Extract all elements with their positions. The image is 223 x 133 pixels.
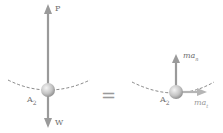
normal-accel-text: ma xyxy=(183,51,195,60)
force-p-arrowhead xyxy=(44,4,52,14)
tangent-accel-text: ma xyxy=(194,98,206,107)
normal-accel-label: man xyxy=(183,52,199,62)
free-body-diagram xyxy=(0,0,223,133)
force-w-arrowhead xyxy=(44,118,52,128)
tangent-accel-label: mat xyxy=(194,99,208,109)
normal-accel-subscript: n xyxy=(195,56,198,62)
tangent-accel-subscript: t xyxy=(206,103,208,109)
force-p-label: P xyxy=(55,5,60,13)
equals-sign: = xyxy=(101,86,116,104)
point-a2-label-left: A2 xyxy=(27,96,37,106)
normal-accel-arrowhead xyxy=(172,54,180,63)
tangent-accel-arrowhead xyxy=(197,88,207,96)
point-subscript: 2 xyxy=(166,99,170,106)
particle-a2-right xyxy=(169,85,183,99)
point-subscript: 2 xyxy=(33,99,37,106)
force-w-label: W xyxy=(55,119,63,127)
particle-a2-left xyxy=(41,83,55,97)
point-a2-label-right: A2 xyxy=(160,96,170,106)
